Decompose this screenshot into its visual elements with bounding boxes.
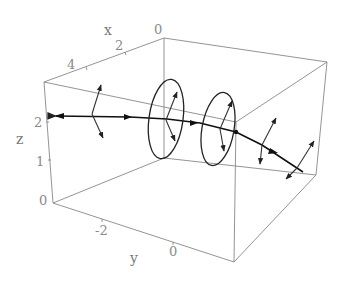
plot-3d: 0 2 4 2 1 0 -2 0 x z y xyxy=(0,0,341,283)
z-axis-label: z xyxy=(16,131,23,147)
loop-2 xyxy=(196,90,240,168)
x-tick-0: 0 xyxy=(154,22,162,37)
bounding-box xyxy=(44,38,327,262)
x-tick-2: 2 xyxy=(115,38,123,53)
y-axis-label: y xyxy=(129,250,138,266)
axis-ticks: 0 2 4 2 1 0 -2 0 x z y xyxy=(16,22,177,266)
z-tick-1: 1 xyxy=(36,154,44,169)
z-tick-0: 0 xyxy=(39,193,47,208)
x-tick-4: 4 xyxy=(67,57,75,72)
y-tick-neg2: -2 xyxy=(95,223,108,238)
y-tick-0: 0 xyxy=(169,244,177,259)
x-axis-label: x xyxy=(104,22,112,38)
z-tick-2: 2 xyxy=(34,115,42,130)
space-curve xyxy=(54,113,303,172)
